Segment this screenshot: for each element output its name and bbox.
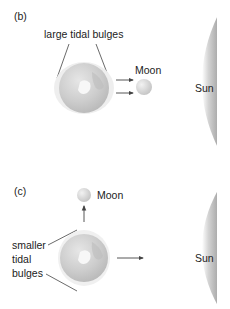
panel-label-c: (c) (14, 186, 26, 197)
bulge-label-c-line2: tidal (12, 254, 31, 265)
sun-label-c: Sun (195, 253, 214, 264)
moon-label-b: Moon (135, 65, 161, 76)
moon-label-c: Moon (97, 190, 123, 201)
moon-icon-b (136, 79, 152, 95)
moon-icon-c (77, 188, 91, 202)
sun-shape-c (202, 190, 218, 306)
panel-c (46, 186, 230, 309)
sun-label-b: Sun (195, 83, 214, 94)
bulge-label-b: large tidal bulges (44, 29, 123, 40)
panel-label-b: (b) (14, 11, 27, 22)
bulge-label-c-line3: bulges (12, 268, 43, 279)
bulge-label-c-line1: smaller (12, 240, 46, 251)
